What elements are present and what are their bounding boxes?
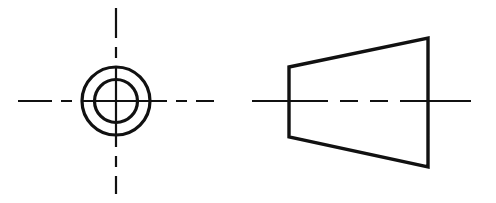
side-view-group [252, 38, 471, 167]
front-view-group [18, 8, 214, 194]
drawing-sheet [0, 0, 496, 203]
trapezoid-profile [289, 38, 428, 167]
technical-drawing-canvas [0, 0, 496, 203]
